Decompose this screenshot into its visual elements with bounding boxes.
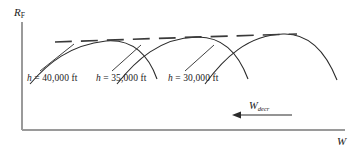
curve-label-35000-ft: h = 35,000 ft [96,74,146,84]
range-factor-figure: RF W h = 40,000 ft h = 35,000 ft h = 30,… [0,0,355,152]
wdecr-arrow-head-icon [232,112,241,119]
x-axis-label: W [337,136,346,147]
wdecr-symbol: W [249,100,258,111]
leader-line-30000 [185,45,214,71]
y-axis-label: RF [14,7,25,19]
curve-label-30000-ft: h = 30,000 ft [168,74,218,84]
wdecr-annotation-label: Wdecr [249,101,269,112]
leader-line-40000 [40,44,74,71]
curve-label-30000-value: = 30,000 ft [173,73,219,83]
curve-label-40000-ft: h = 40,000 ft [27,74,77,84]
wdecr-subscript: decr [258,105,270,112]
leader-line-35000 [112,45,141,71]
y-axis-label-subscript: F [21,11,25,20]
curve-label-40000-value: = 40,000 ft [32,73,78,83]
y-axis-label-symbol: R [14,6,21,18]
curve-30000-ft [205,34,337,84]
curve-label-35000-value: = 35,000 ft [101,73,147,83]
